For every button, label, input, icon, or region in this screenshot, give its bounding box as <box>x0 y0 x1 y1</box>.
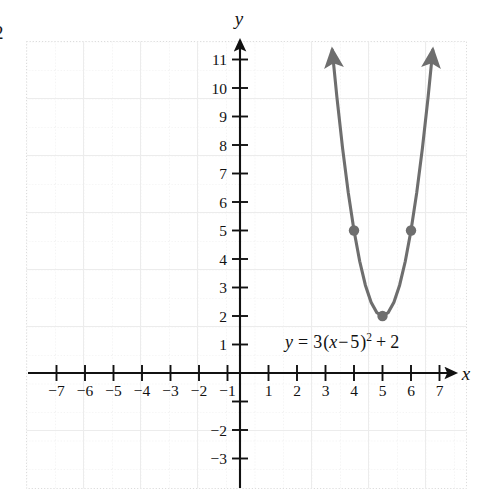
x-tick-label: −1 <box>219 382 236 399</box>
x-tick-label: 7 <box>436 382 444 399</box>
x-tick-label: −7 <box>48 382 65 399</box>
x-tick-label: 5 <box>379 382 387 399</box>
x-tick-label: 2 <box>293 382 301 399</box>
grid <box>27 42 467 489</box>
x-tick-label: 6 <box>407 382 415 399</box>
equation-annotation: y=3(x−5)2+2 <box>283 331 399 353</box>
coordinate-plane: y x 11 10 9 8 7 6 5 4 3 2 1 −2 −3 −7 −6 … <box>0 0 487 496</box>
y-tick-label: 4 <box>219 251 227 268</box>
y-tick-label: 6 <box>219 194 227 211</box>
y-tick-label: 9 <box>219 108 227 125</box>
x-tick-label: −3 <box>162 382 179 399</box>
equation-equals: = <box>298 332 308 352</box>
x-tick-label: −4 <box>134 382 151 399</box>
equation-shift: 5 <box>350 332 359 352</box>
equation-plus: + <box>376 332 386 352</box>
x-axis-label: x <box>461 363 471 384</box>
y-tick-label: 8 <box>219 137 227 154</box>
x-tick-label: −6 <box>77 382 94 399</box>
x-tick-label: 1 <box>265 382 273 399</box>
equation-constant: 2 <box>390 332 399 352</box>
y-tick-label: −3 <box>211 450 228 467</box>
y-tick-label: 5 <box>219 222 227 239</box>
y-tick-label: 11 <box>212 51 227 68</box>
x-tick-label: −5 <box>105 382 122 399</box>
x-tick-label: −2 <box>191 382 208 399</box>
y-tick-label: −2 <box>211 422 228 439</box>
equation-minus: − <box>338 332 348 352</box>
y-tick-label: 7 <box>219 165 227 182</box>
equation-coefficient: 3 <box>313 332 322 352</box>
plot-point <box>349 225 359 235</box>
y-tick-label: 1 <box>219 336 227 353</box>
x-tick-label: 4 <box>350 382 358 399</box>
plot-point <box>377 311 387 321</box>
graph-figure: 2 <box>0 0 487 496</box>
y-axis-label: y <box>233 8 244 29</box>
x-tick-label: 3 <box>322 382 330 399</box>
plot-point <box>406 225 416 235</box>
equation-variable: x <box>328 332 337 352</box>
y-tick-label: 10 <box>212 80 228 97</box>
y-tick-label: 3 <box>219 279 227 296</box>
equation-lhs: y <box>283 332 293 352</box>
y-tick-label: 2 <box>219 308 227 325</box>
equation-exponent: 2 <box>366 331 372 343</box>
